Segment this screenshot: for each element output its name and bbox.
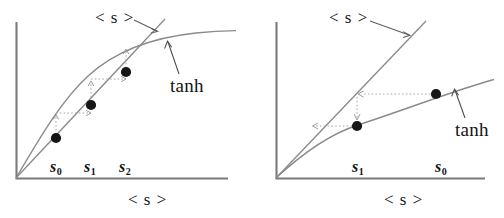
point-s0 — [431, 89, 441, 99]
point-s0 — [51, 133, 61, 143]
point-s1 — [352, 121, 362, 131]
tanh-leader-arrow — [165, 41, 179, 74]
point-s2 — [121, 67, 131, 77]
panel-left-graphic — [0, 0, 252, 218]
tick-label-s2: s2 — [119, 159, 130, 175]
identity-diagonal-line — [276, 21, 426, 178]
panel-right-graphic — [252, 0, 504, 218]
mean-s-leader-arrow — [370, 21, 410, 38]
panel-left-increasing-iteration: < s > tanh s0 s1 s2 < s > — [0, 0, 252, 218]
x-axis-label-mean-s: < s > — [128, 191, 167, 208]
tick-label-s0: s0 — [435, 159, 446, 175]
curve-label-tanh: tanh — [455, 120, 489, 139]
panel-right-decreasing-iteration: < s > tanh s1 s0 < s > — [252, 0, 504, 218]
identity-diagonal-line — [16, 19, 165, 178]
curve-label-tanh: tanh — [170, 76, 204, 95]
tick-label-s0: s0 — [50, 159, 61, 175]
diagonal-label-mean-s: < s > — [329, 9, 368, 26]
tick-label-s1: s1 — [352, 159, 363, 175]
figure-root: < s > tanh s0 s1 s2 < s > — [0, 0, 504, 218]
tick-label-s1: s1 — [84, 159, 95, 175]
tanh-leader-arrow — [452, 89, 465, 118]
diagonal-label-mean-s: < s > — [95, 9, 134, 26]
point-s1 — [86, 100, 96, 110]
x-axis-label-mean-s: < s > — [384, 191, 423, 208]
cobweb-dotted-path — [314, 94, 434, 126]
